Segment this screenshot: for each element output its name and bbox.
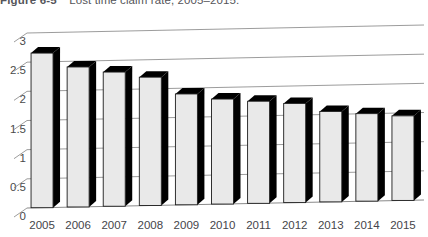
x-axis-tick-label: 2010 [203, 218, 243, 232]
x-axis-tick-label: 2006 [58, 218, 98, 232]
bar-front-face [139, 77, 161, 205]
bar [31, 47, 60, 208]
gridline [27, 25, 424, 33]
bar-side-face [197, 88, 204, 205]
bar [67, 61, 96, 207]
bar-front-face [284, 103, 306, 202]
bar-front-face [392, 116, 414, 201]
x-axis-tick-labels: 2005200620072008200920102011201220132014… [0, 218, 428, 237]
y-axis-tick-leader [14, 91, 27, 100]
bar-front-face [320, 111, 342, 201]
y-axis-tick-leader [14, 33, 27, 42]
bar [320, 105, 349, 201]
bar [139, 71, 168, 205]
bar-front-face [356, 114, 378, 202]
plot-canvas [0, 10, 428, 237]
bar-series [31, 47, 421, 208]
gridline [27, 54, 424, 62]
bar-front-face [248, 101, 270, 203]
bar-side-face [53, 47, 60, 208]
bar-side-face [125, 66, 132, 206]
figure-caption: Figure 6-5 Lost time claim rate, 2005–20… [0, 0, 428, 10]
y-axis-tick-leader [14, 208, 27, 217]
bar [103, 66, 132, 206]
x-axis-tick-label: 2008 [130, 218, 170, 232]
x-axis-tick-label: 2014 [347, 218, 387, 232]
bar-side-face [342, 105, 349, 201]
bar [392, 110, 421, 201]
x-axis-tick-label: 2007 [94, 218, 134, 232]
x-axis-tick-label: 2013 [311, 218, 351, 232]
bar [212, 93, 241, 204]
bar-front-face [31, 53, 53, 208]
y-axis-tick-leader [14, 121, 27, 130]
bar-front-face [175, 94, 197, 205]
bar-front-face [212, 99, 234, 204]
bar-side-face [89, 61, 96, 207]
bar-side-face [270, 95, 277, 203]
bar [175, 88, 204, 205]
x-axis-tick-label: 2011 [239, 218, 279, 232]
y-axis-tick-leader [14, 179, 27, 188]
bar-side-face [234, 93, 241, 204]
x-axis-tick-label: 2005 [22, 218, 62, 232]
bar-side-face [414, 110, 421, 201]
bar-chart: 00.511.522.53 20052006200720082009201020… [0, 10, 428, 237]
bar-front-face [103, 72, 125, 206]
figure-number: Figure 6-5 [0, 0, 57, 6]
bar [356, 108, 385, 202]
figure-caption-text: Lost time claim rate, 2005–2015. [69, 0, 239, 6]
x-axis-tick-label: 2012 [275, 218, 315, 232]
bar-front-face [67, 67, 89, 207]
x-axis-tick-label: 2009 [166, 218, 206, 232]
y-axis-tick-leader [14, 62, 27, 71]
x-axis-tick-label: 2015 [383, 218, 423, 232]
bar [284, 97, 313, 202]
bar [248, 95, 277, 203]
y-axis-tick-leader [14, 150, 27, 159]
bar-side-face [306, 97, 313, 202]
bar-side-face [378, 108, 385, 202]
bar-side-face [161, 71, 168, 205]
